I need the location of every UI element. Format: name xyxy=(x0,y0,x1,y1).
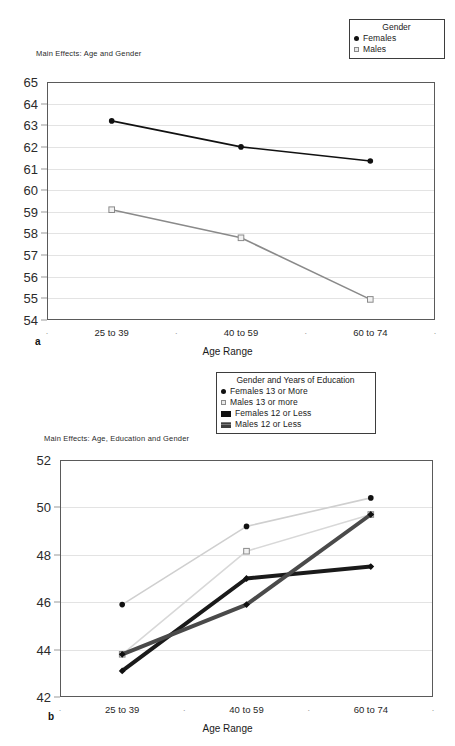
data-point-circle xyxy=(119,602,125,608)
data-point-square xyxy=(238,235,244,241)
data-point-circle xyxy=(238,144,244,150)
panel-b: Gender and Years of Education Females 13… xyxy=(0,372,455,746)
data-point-circle xyxy=(244,524,250,530)
series-line xyxy=(112,121,371,161)
series-layer-b xyxy=(0,372,455,746)
data-point-circle xyxy=(368,495,374,501)
data-point-circle xyxy=(368,158,374,164)
panel-a: Gender Females Males Main Effects: Age a… xyxy=(0,0,455,372)
series-line xyxy=(112,210,371,300)
x-axis-label-a: Age Range xyxy=(0,346,455,357)
data-point-circle xyxy=(109,118,115,124)
data-point-square xyxy=(368,297,374,303)
x-axis-label-b: Age Range xyxy=(0,723,455,734)
series-line xyxy=(122,567,371,671)
data-point-diamond xyxy=(367,563,374,570)
data-point-square xyxy=(109,207,115,213)
series-line xyxy=(122,515,371,655)
data-point-square xyxy=(244,548,250,554)
panel-letter-b: b xyxy=(48,711,54,722)
series-line xyxy=(122,515,371,655)
series-layer-a xyxy=(0,0,455,372)
panel-letter-a: a xyxy=(35,336,41,347)
